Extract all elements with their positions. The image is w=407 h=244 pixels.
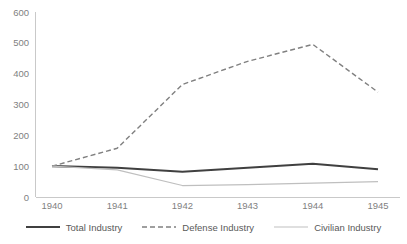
legend-line-swatch-icon — [274, 222, 308, 232]
series-line-total-industry — [52, 164, 378, 172]
y-axis-tick-labels: 0100200300400500600 — [13, 7, 29, 203]
x-tick-label: 1941 — [107, 200, 128, 211]
y-tick-label: 200 — [13, 130, 29, 141]
x-tick-label: 1945 — [367, 200, 388, 211]
line-chart: 0100200300400500600 19401941194219431944… — [0, 0, 407, 244]
legend-label: Total Industry — [66, 222, 123, 233]
legend-entry-total-industry[interactable]: Total Industry — [16, 222, 133, 233]
y-tick-label: 100 — [13, 161, 29, 172]
chart-legend: Total IndustryDefense IndustryCivilian I… — [0, 214, 407, 240]
plot-area: 0100200300400500600 19401941194219431944… — [0, 0, 407, 212]
y-tick-label: 400 — [13, 68, 29, 79]
y-tick-label: 0 — [24, 192, 29, 203]
series-line-defense-industry — [52, 44, 378, 166]
legend-label: Defense Industry — [182, 222, 254, 233]
legend-line-swatch-icon — [26, 222, 60, 232]
x-tick-label: 1944 — [302, 200, 323, 211]
x-tick-label: 1942 — [172, 200, 193, 211]
y-tick-label: 300 — [13, 99, 29, 110]
legend-entry-civilian-industry[interactable]: Civilian Industry — [264, 222, 391, 233]
legend-label: Civilian Industry — [314, 222, 381, 233]
x-axis-tick-labels: 194019411942194319441945 — [41, 200, 388, 211]
y-tick-label: 600 — [13, 7, 29, 18]
y-tick-label: 500 — [13, 37, 29, 48]
legend-entry-defense-industry[interactable]: Defense Industry — [132, 222, 264, 233]
x-tick-label: 1943 — [237, 200, 258, 211]
x-tick-label: 1940 — [41, 200, 62, 211]
series-lines — [52, 44, 378, 185]
legend-line-swatch-icon — [142, 222, 176, 232]
